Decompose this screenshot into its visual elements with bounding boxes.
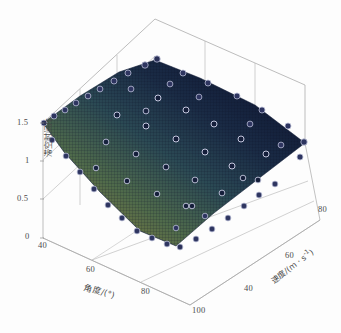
z-tick-label-1-5: 1.5 [17, 117, 28, 127]
y-tick-label-40: 40 [244, 283, 253, 293]
z-tick-label-1: 1 [25, 155, 29, 165]
y-tick-label-80: 80 [318, 204, 327, 214]
x-tick-label-80: 80 [141, 286, 150, 296]
x-tick-label-100: 100 [192, 305, 205, 315]
z-tick-label-0-5: 0.5 [17, 193, 28, 203]
z-axis-title: 滞空时间/s [42, 103, 53, 173]
x-tick-label-60: 60 [86, 264, 95, 274]
figure-3d-surface-plot: 1.5 1 0.5 0 40 60 80 100 40 60 80 滞空时间/s… [0, 0, 341, 333]
x-tick-label-40: 40 [38, 240, 47, 250]
z-tick-label-0: 0 [25, 231, 29, 241]
